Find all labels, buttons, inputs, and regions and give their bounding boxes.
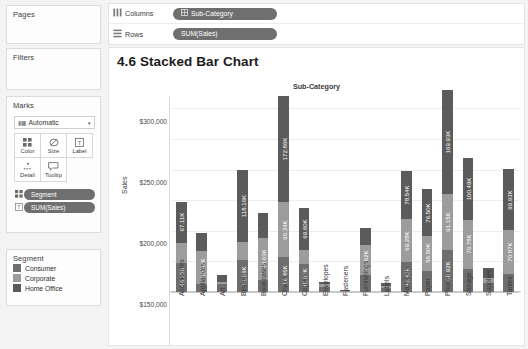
columns-pill-sub-category[interactable]: Sub-Category xyxy=(173,8,277,20)
shelf-area: Columns Sub-Category Rows SUM(Sales) xyxy=(108,3,525,45)
filters-card[interactable]: Filters xyxy=(6,48,101,90)
color-button-label: Color xyxy=(21,148,35,154)
stacked-bar[interactable]: Labels xyxy=(381,283,392,292)
legend-label-consumer: Consumer xyxy=(25,265,56,272)
stacked-bar[interactable]: 68.63KBookcases xyxy=(258,213,269,292)
bar-segment[interactable]: 76.50K xyxy=(422,189,433,236)
stacked-bar[interactable]: 49.42K69.28K78.54KMachines xyxy=(401,171,412,292)
bar-segment[interactable]: 172.86K xyxy=(278,96,289,202)
stacked-bar[interactable]: 52.82KAppliances xyxy=(196,233,207,292)
bar-segment[interactable]: 69.60K xyxy=(299,208,310,251)
stacked-bar[interactable]: Art xyxy=(217,275,228,292)
legend-item-home-office[interactable]: Home Office xyxy=(7,283,100,293)
bar-value-label: 169.93K xyxy=(444,131,451,154)
bar-value-label: 90.34K xyxy=(280,220,287,239)
size-button-label: Size xyxy=(48,148,59,154)
bar-segment[interactable]: 79.78K xyxy=(463,220,474,269)
label-button-label: Label xyxy=(72,148,86,154)
rows-pill-sum-sales[interactable]: SUM(Sales) xyxy=(173,28,277,40)
worksheet-pane: 4.6 Stacked Bar Chart Sub-Category Sales… xyxy=(108,47,525,346)
gridline: $250,000 xyxy=(171,139,519,140)
marks-pill-segment[interactable]: Segment xyxy=(24,189,95,200)
pages-card-title: Pages xyxy=(7,6,100,19)
stacked-bar[interactable]: 70.87K99.93KTables xyxy=(503,169,514,292)
pages-card[interactable]: Pages xyxy=(6,5,101,44)
x-axis-tick-label: Binders xyxy=(239,273,246,296)
legend-item-consumer[interactable]: Consumer xyxy=(7,263,100,273)
stacked-bar[interactable]: Fasteners xyxy=(340,290,351,292)
bar-segment[interactable]: 56.50K xyxy=(422,236,433,271)
marks-pill-sum-sales[interactable]: SUM(Sales) xyxy=(24,202,95,213)
color-button[interactable]: Color xyxy=(14,133,41,158)
bar-value-label: 69.60K xyxy=(301,219,308,238)
bar-segment[interactable] xyxy=(360,228,371,245)
bar-segment[interactable]: 99.93K xyxy=(503,169,514,230)
x-axis-tick-label: Labels xyxy=(382,276,389,296)
tooltip-bubble-icon xyxy=(48,161,59,171)
stacked-bar[interactable]: 56.50K76.50KPaper xyxy=(422,189,433,292)
marks-pill-segment-row[interactable]: Segment xyxy=(14,189,95,200)
stacked-bar[interactable]: 68.92K91.15K169.93KPhones xyxy=(442,90,453,292)
stacked-bar[interactable]: Envelopes xyxy=(319,282,330,292)
rows-shelf[interactable]: Rows SUM(Sales) xyxy=(109,24,524,44)
columns-shelf-label: Columns xyxy=(125,9,173,18)
columns-shelf[interactable]: Columns Sub-Category xyxy=(109,4,524,24)
marks-card[interactable]: Marks ▮▮▮ Automatic ▾ Color xyxy=(6,96,101,233)
legend-item-corporate[interactable]: Corporate xyxy=(7,273,100,283)
pane-left-edge xyxy=(169,96,170,345)
bar-segment[interactable]: 78.54K xyxy=(401,171,412,219)
bar-value-label: 99.93K xyxy=(505,190,512,209)
stacked-bar[interactable]: Supplies xyxy=(483,268,494,292)
stacked-bar[interactable]: 56.45K90.34K172.86KChairs xyxy=(278,96,289,292)
y-axis-tick-label: $250,000 xyxy=(139,178,167,185)
bar-value-label: 76.50K xyxy=(423,203,430,222)
color-squares-icon xyxy=(23,137,32,147)
bar-segment[interactable]: 91.15K xyxy=(442,194,453,250)
stacked-bar[interactable]: 45.83K69.60KCopiers xyxy=(299,208,310,292)
tooltip-button[interactable]: Tooltip xyxy=(40,157,67,182)
label-button[interactable]: T Label xyxy=(66,133,93,158)
bar-segment[interactable] xyxy=(258,213,269,238)
mark-type-label: Automatic xyxy=(29,119,89,126)
size-circle-icon xyxy=(49,137,59,147)
tableau-window: Pages Filters Marks ▮▮▮ Automatic ▾ Colo… xyxy=(0,0,528,349)
bar-segment[interactable] xyxy=(196,233,207,251)
bar-segment[interactable]: 100.49K xyxy=(463,158,474,220)
y-axis-tick-label: $150,000 xyxy=(139,301,167,308)
tooltip-button-label: Tooltip xyxy=(45,172,62,178)
bar-segment[interactable]: 90.34K xyxy=(278,202,289,257)
columns-pill-label: Sub-Category xyxy=(191,8,233,20)
bar-segment[interactable]: 169.93K xyxy=(442,90,453,194)
marks-pill-sales-row[interactable]: T SUM(Sales) xyxy=(14,202,95,213)
bar-segment[interactable] xyxy=(217,275,228,281)
bar-value-label: 69.28K xyxy=(403,231,410,250)
bar-value-label: 172.86K xyxy=(280,138,287,161)
column-field-header: Sub-Category xyxy=(109,82,524,91)
bar-value-label: 67.11K xyxy=(178,213,185,232)
x-axis-tick-label: Furnishings xyxy=(362,261,369,296)
bar-segment[interactable]: 70.87K xyxy=(503,230,514,273)
size-button[interactable]: Size xyxy=(40,133,67,158)
bar-segment[interactable] xyxy=(299,250,310,263)
mark-type-dropdown[interactable]: ▮▮▮ Automatic ▾ xyxy=(14,116,95,129)
caret-down-icon[interactable]: ▾ xyxy=(88,120,91,126)
bar-segment[interactable]: 67.11K xyxy=(176,202,187,243)
legend-swatch-consumer xyxy=(13,264,21,272)
stacked-bar[interactable]: 49.62KFurnishings xyxy=(360,228,371,292)
x-axis-tick-label: Art xyxy=(219,287,226,296)
color-legend-card[interactable]: Segment Consumer Corporate Home Office xyxy=(6,249,101,306)
stacked-bar[interactable]: 51.56K118.16KBinders xyxy=(237,170,248,292)
detail-dots-icon xyxy=(23,161,33,171)
bar-segment[interactable] xyxy=(217,282,228,284)
bar-segment[interactable] xyxy=(237,242,248,260)
y-axis-tick-label: $300,000 xyxy=(139,117,167,124)
marks-button-grid: Color Size T Label xyxy=(14,133,95,181)
x-axis-tick-label: Machines xyxy=(403,267,410,296)
stacked-bar[interactable]: 48.15K67.11KAccessories xyxy=(176,202,187,292)
x-axis-tick-label: Fasteners xyxy=(341,266,348,296)
bar-value-label: 100.49K xyxy=(464,178,471,201)
stacked-bar[interactable]: 79.78K100.49KStorage xyxy=(463,158,474,292)
detail-button[interactable]: Detail xyxy=(14,157,41,182)
bar-segment[interactable]: 118.16K xyxy=(237,170,248,242)
bar-segment[interactable]: 69.28K xyxy=(401,219,412,261)
